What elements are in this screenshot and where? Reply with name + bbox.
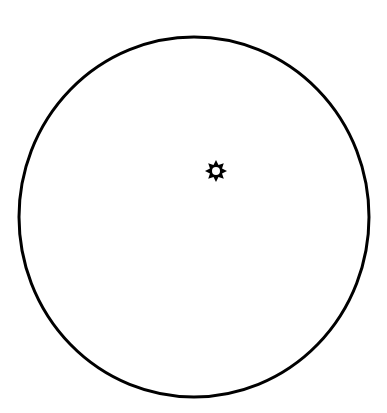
sun-center	[212, 167, 220, 175]
diagram-svg	[0, 0, 387, 413]
outer-circle	[19, 37, 369, 397]
sun-icon	[205, 160, 227, 182]
diagram-canvas	[0, 0, 387, 413]
